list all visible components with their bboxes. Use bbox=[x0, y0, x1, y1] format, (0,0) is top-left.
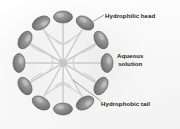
aqueous-solution-label-line1: Aqueous bbox=[117, 52, 143, 60]
hydrophilic-head-leader-line bbox=[92, 15, 104, 22]
hydrophilic-head bbox=[101, 54, 113, 73]
aqueous-solution-label: Aqueous solution bbox=[117, 52, 143, 67]
hydrophilic-head bbox=[54, 11, 73, 23]
tail-web-hub bbox=[59, 59, 67, 67]
hydrophilic-head bbox=[54, 103, 73, 115]
hydrophobic-tail-label: Hydrophobic tail bbox=[101, 100, 150, 108]
hydrophilic-head bbox=[13, 54, 25, 73]
aqueous-solution-label-line2: solution bbox=[117, 60, 143, 68]
micelle-illustration bbox=[0, 0, 180, 129]
hydrophilic-head-label: Hydrophilic head bbox=[105, 12, 155, 20]
micelle-diagram-figure: Hydrophilic head Aqueous solution Hydrop… bbox=[0, 0, 180, 129]
